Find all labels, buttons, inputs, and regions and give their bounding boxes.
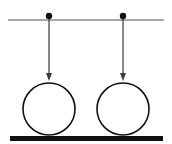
diagram-canvas — [0, 0, 172, 144]
ground-bar — [10, 136, 163, 141]
pivot-dot-icon — [46, 13, 52, 19]
pivot-dot-icon — [120, 13, 126, 19]
